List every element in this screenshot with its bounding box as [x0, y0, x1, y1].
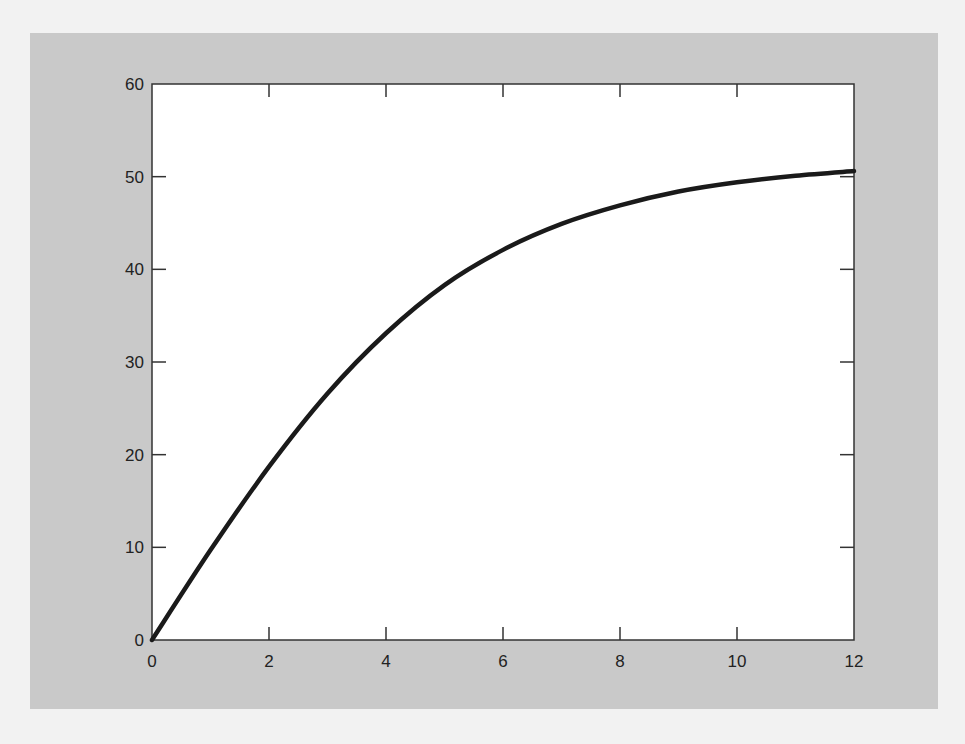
plot-area — [152, 84, 854, 640]
y-tick-label: 60 — [125, 75, 144, 94]
y-tick-label: 20 — [125, 446, 144, 465]
y-tick-label: 40 — [125, 260, 144, 279]
y-tick-label: 10 — [125, 538, 144, 557]
y-tick-label: 50 — [125, 168, 144, 187]
x-tick-label: 4 — [381, 652, 390, 671]
x-tick-label: 6 — [498, 652, 507, 671]
y-tick-label: 30 — [125, 353, 144, 372]
x-tick-label: 12 — [845, 652, 864, 671]
x-tick-label: 2 — [264, 652, 273, 671]
line-chart: 024681012 0102030405060 — [0, 0, 965, 744]
x-tick-label: 10 — [728, 652, 747, 671]
y-tick-label: 0 — [135, 631, 144, 650]
x-tick-label: 0 — [147, 652, 156, 671]
x-tick-label: 8 — [615, 652, 624, 671]
